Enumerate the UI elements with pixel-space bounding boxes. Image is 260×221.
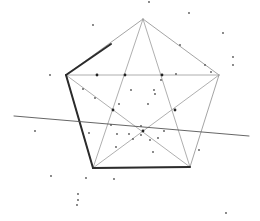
scatter-dot	[76, 204, 78, 206]
pentagram-line	[143, 19, 190, 167]
scatter-dot	[222, 32, 224, 34]
scatter-dot	[34, 130, 36, 132]
scatter-dot	[149, 139, 151, 141]
pentagon-edges	[66, 19, 219, 168]
scatter-dot	[88, 132, 90, 134]
scatter-dot	[232, 56, 234, 58]
scatter-dot	[204, 64, 206, 66]
scatter-dot	[152, 151, 154, 153]
scatter-dot	[50, 175, 52, 177]
scatter-dot	[210, 71, 212, 73]
thick-edge	[66, 44, 111, 75]
scatter-dot	[130, 89, 132, 91]
pentagon-edge	[143, 19, 219, 75]
scatter-dot	[118, 103, 120, 105]
pentagram-line	[66, 75, 190, 167]
intersection-point	[124, 74, 127, 77]
intersection-point	[174, 109, 177, 112]
scatter-dot	[77, 193, 79, 195]
scatter-dot	[115, 146, 117, 148]
intersection-point	[142, 130, 145, 133]
scatter-dot	[232, 64, 234, 66]
scatter-dot	[92, 24, 94, 26]
scatter-dot	[179, 44, 181, 46]
scatter-dot	[163, 130, 165, 132]
scatter-dot	[157, 137, 159, 139]
scatter-dot	[77, 199, 79, 201]
scatter-dots	[34, 1, 234, 214]
intersection-point	[161, 74, 164, 77]
scatter-dot	[128, 133, 130, 135]
scatter-dot	[113, 178, 115, 180]
scatter-dot	[188, 12, 190, 14]
scatter-dot	[85, 177, 87, 179]
pentagon-diagram	[0, 0, 260, 221]
intersection-point	[96, 74, 99, 77]
scatter-dot	[147, 103, 149, 105]
scatter-dot	[225, 212, 227, 214]
scatter-dot	[116, 133, 118, 135]
intersection-point	[112, 109, 115, 112]
scatter-dot	[148, 1, 150, 3]
scatter-dot	[94, 97, 96, 99]
scatter-dot	[82, 88, 84, 90]
thick-edge	[93, 167, 190, 168]
cross-line	[14, 116, 249, 136]
pentagram-line	[93, 19, 143, 168]
pentagram-line	[93, 75, 219, 168]
scatter-dot	[140, 134, 142, 136]
scatter-dot	[153, 89, 155, 91]
scatter-dot	[175, 73, 177, 75]
scatter-dot	[132, 138, 134, 140]
pentagram-lines	[66, 19, 219, 168]
scatter-dot	[140, 125, 142, 127]
scatter-dot	[198, 149, 200, 151]
scatter-dot	[49, 74, 51, 76]
scatter-dot	[154, 93, 156, 95]
scatter-dot	[110, 124, 112, 126]
pentagon-edge	[190, 75, 219, 167]
cross-line	[14, 116, 249, 136]
scatter-dot	[160, 79, 162, 81]
